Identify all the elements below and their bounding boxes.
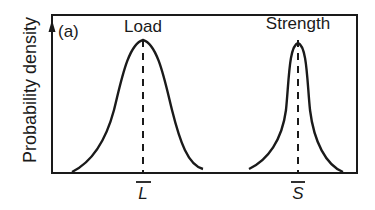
y-axis-arrow-icon — [49, 20, 56, 32]
load-curve — [72, 40, 203, 172]
y-axis-label: Probability density — [20, 17, 40, 163]
load-label: Load — [124, 17, 162, 36]
panel-label: (a) — [58, 22, 79, 41]
load-mean-label: L — [138, 184, 147, 203]
strength-mean-label: S — [292, 184, 304, 203]
strength-label: Strength — [266, 14, 330, 33]
stress-strength-diagram: (a) Probability density Load Strength L … — [0, 0, 375, 210]
strength-curve — [249, 43, 343, 172]
